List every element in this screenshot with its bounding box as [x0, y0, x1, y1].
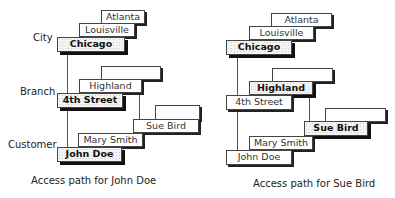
- branch-box-4th-street: 4th Street: [226, 95, 292, 110]
- customer-box-john-doe: John Doe: [226, 150, 292, 165]
- customer-box-mary-smith: Mary Smith: [78, 133, 143, 147]
- path-line: [139, 93, 140, 119]
- caption-right: Access path for Sue Bird: [253, 178, 375, 189]
- city-box-louisville: Louisville: [79, 23, 135, 37]
- branch-box-empty: [101, 66, 161, 80]
- city-box-atlanta: Atlanta: [101, 10, 145, 24]
- branch-box-empty: [272, 68, 333, 82]
- city-box-chicago: Chicago: [57, 37, 125, 52]
- customer-box-empty: [325, 108, 386, 122]
- city-box-chicago: Chicago: [226, 40, 292, 55]
- level-label-city: City: [33, 32, 53, 43]
- customer-box-sue-bird: Sue Bird: [304, 121, 368, 136]
- city-box-louisville: Louisville: [249, 26, 314, 40]
- level-label-branch: Branch: [20, 86, 55, 97]
- path-line: [309, 95, 310, 121]
- customer-box-mary-smith: Mary Smith: [249, 136, 313, 150]
- caption-left: Access path for John Doe: [31, 175, 156, 186]
- customer-box-empty: [155, 105, 200, 120]
- customer-box-john-doe: John Doe: [57, 147, 122, 162]
- branch-box-4th-street: 4th Street: [57, 93, 123, 108]
- branch-box-highland: Highland: [79, 79, 142, 93]
- branch-box-highland: Highland: [249, 81, 313, 95]
- customer-box-sue-bird: Sue Bird: [133, 119, 199, 133]
- city-box-atlanta: Atlanta: [271, 13, 332, 27]
- level-label-customer: Customer: [8, 139, 57, 150]
